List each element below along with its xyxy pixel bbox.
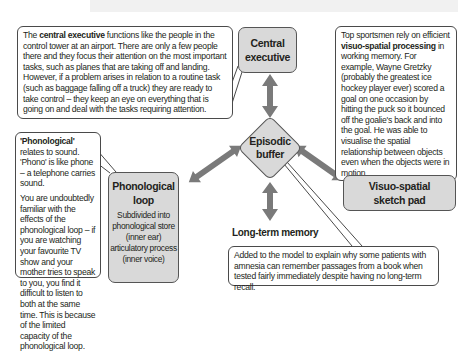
callout-text: Added to the model to explain why some p… bbox=[234, 250, 433, 292]
central-executive-box: Central executive bbox=[238, 27, 297, 73]
callout-text: functions like the people in the control… bbox=[23, 30, 226, 114]
callout-phonological: 'Phonological' relates to sound. 'Phono'… bbox=[15, 132, 101, 278]
box-label: Episodic bbox=[238, 135, 302, 148]
callout-text: The bbox=[23, 30, 39, 40]
box-label: sketch pad bbox=[344, 193, 455, 207]
callout-bold-term: central executive bbox=[39, 30, 105, 40]
box-detail: (inner ear) bbox=[109, 232, 178, 243]
callout-visuo-spatial: Top sportsmen rely on efficient visuo-sp… bbox=[335, 26, 457, 181]
visuo-spatial-box: Visuo-spatial sketch pad bbox=[343, 175, 456, 211]
callout-text: in working memory. For example, Wayne Gr… bbox=[341, 41, 449, 178]
box-label: Phonological bbox=[109, 179, 178, 193]
callout-text: You are undoubtedly familiar with the ef… bbox=[20, 193, 96, 352]
box-detail: articulatory process bbox=[109, 243, 178, 254]
callout-episodic-buffer: Added to the model to explain why some p… bbox=[228, 246, 439, 286]
box-label: executive bbox=[239, 50, 296, 64]
long-term-memory-label: Long-term memory bbox=[232, 227, 318, 238]
box-detail: (inner voice) bbox=[109, 254, 178, 265]
callout-bold-term: 'Phonological' bbox=[20, 136, 75, 146]
arrow-eb-ltm bbox=[262, 182, 278, 221]
callout-bold-term: visuo-spatial processing bbox=[341, 41, 436, 51]
episodic-buffer-diamond: Episodic buffer bbox=[238, 116, 302, 180]
callout-text: Top sportsmen rely on efficient bbox=[341, 30, 450, 40]
phonological-loop-box: Phonological loop Subdivided into phonol… bbox=[108, 172, 179, 283]
box-detail: Subdivided into bbox=[109, 210, 178, 221]
box-label: loop bbox=[109, 193, 178, 207]
arrow-eb-pl bbox=[185, 140, 245, 188]
arrow-ce-eb bbox=[262, 74, 278, 118]
box-label: Visuo-spatial bbox=[344, 179, 455, 193]
box-label: buffer bbox=[238, 148, 302, 161]
callout-text: relates to sound. 'Phono' is like phone … bbox=[20, 147, 95, 189]
box-detail: phonological store bbox=[109, 221, 178, 232]
box-label: Central bbox=[239, 36, 296, 50]
callout-central-executive: The central executive functions like the… bbox=[17, 26, 233, 119]
